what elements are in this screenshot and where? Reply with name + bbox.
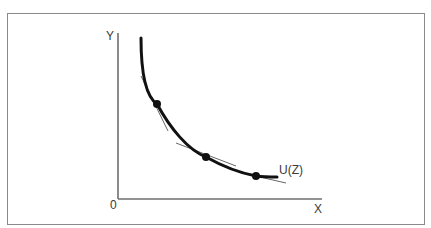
tangency-point-3	[252, 172, 260, 180]
tangency-point-1	[153, 100, 161, 108]
indifference-curve-diagram	[0, 0, 431, 228]
origin-label: 0	[110, 199, 117, 211]
curve-label: U(Z)	[279, 164, 303, 176]
y-axis-label: Y	[106, 30, 114, 42]
tangency-point-2	[202, 153, 210, 161]
x-axis-label: X	[314, 203, 322, 215]
